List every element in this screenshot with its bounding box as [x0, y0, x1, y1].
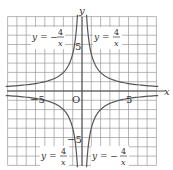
- y-tick-5: 5: [75, 41, 81, 52]
- y-tick-neg5: −5: [67, 134, 82, 145]
- svg-text:4: 4: [114, 28, 119, 37]
- svg-text:4: 4: [121, 147, 126, 156]
- svg-text:x: x: [114, 39, 119, 48]
- label-top-left: y = − 4 x: [31, 27, 65, 49]
- label-top-right: y = 4 x: [93, 27, 122, 49]
- x-tick-neg5: −5: [30, 94, 45, 105]
- x-tick-5: 5: [126, 94, 132, 105]
- hyperbola-chart: x y O −5 5 5 −5 y = − 4 x y = 4 x y = 4 …: [0, 0, 173, 170]
- svg-text:x: x: [121, 158, 126, 167]
- svg-text:x: x: [61, 158, 66, 167]
- y-axis-label: y: [78, 5, 85, 16]
- svg-text:y = −: y = −: [91, 151, 118, 161]
- svg-text:4: 4: [61, 147, 66, 156]
- origin-label: O: [72, 94, 80, 105]
- svg-text:4: 4: [58, 28, 63, 37]
- svg-text:x: x: [58, 39, 63, 48]
- x-axis-label: x: [164, 86, 170, 97]
- svg-text:y =: y =: [93, 32, 110, 42]
- label-bottom-right: y = − 4 x: [91, 146, 129, 168]
- svg-text:y = −: y = −: [31, 32, 58, 42]
- svg-text:y =: y =: [40, 151, 57, 161]
- label-bottom-left: y = 4 x: [40, 146, 69, 168]
